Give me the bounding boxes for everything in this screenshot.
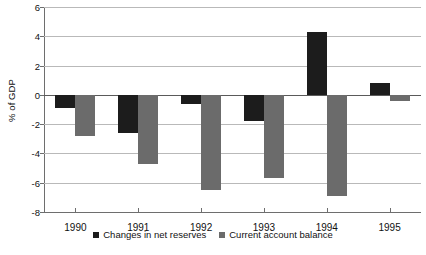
y-axis-title: % of GDP (6, 66, 17, 136)
legend-swatch-icon-1 (219, 232, 225, 238)
legend-item-1: Current account balance (219, 229, 333, 240)
gridline-4 (44, 36, 421, 37)
y-tick-label-2: 2 (35, 60, 40, 71)
y-axis-line (44, 7, 45, 212)
y-tick-0 (40, 95, 44, 96)
y-tick--6 (40, 183, 44, 184)
bar-1991-series-0 (118, 95, 138, 133)
y-tick--8 (40, 212, 44, 213)
y-tick--4 (40, 153, 44, 154)
bar-1995-series-0 (370, 83, 390, 95)
bar-1994-series-0 (307, 32, 327, 95)
y-tick-label-4: 4 (35, 31, 40, 42)
x-tick-bottom-1993 (264, 208, 265, 212)
bar-1992-series-0 (181, 95, 201, 104)
gridline-0 (44, 95, 421, 96)
y-tick-label-6: 6 (35, 2, 40, 13)
y-tick--2 (40, 124, 44, 125)
chart-figure: % of GDP 6420-2-4-6-81990199119921993199… (0, 0, 426, 255)
legend-label-1: Current account balance (229, 229, 333, 240)
gridline--8 (44, 212, 421, 213)
x-tick-bottom-1991 (138, 208, 139, 212)
y-tick-label--4: -4 (32, 148, 40, 159)
bar-1993-series-0 (244, 95, 264, 121)
gridline-6 (44, 7, 421, 8)
x-tick-bottom-1992 (201, 208, 202, 212)
y-tick-label-0: 0 (35, 89, 40, 100)
y-tick-label--8: -8 (32, 207, 40, 218)
plot-area: 6420-2-4-6-8199019911992199319941995 (44, 7, 421, 212)
y-tick-4 (40, 36, 44, 37)
bar-1995-series-1 (390, 95, 410, 101)
bar-1993-series-1 (264, 95, 284, 178)
gridline--4 (44, 153, 421, 154)
x-tick-bottom-1990 (75, 208, 76, 212)
y-tick-6 (40, 7, 44, 8)
bar-1990-series-0 (55, 95, 75, 108)
bar-1991-series-1 (138, 95, 158, 164)
legend-swatch-icon-0 (93, 232, 99, 238)
legend-label-0: Changes in net reserves (103, 229, 206, 240)
bar-1994-series-1 (327, 95, 347, 196)
y-tick-label--2: -2 (32, 119, 40, 130)
y-tick-label--6: -6 (32, 177, 40, 188)
legend-item-0: Changes in net reserves (93, 229, 206, 240)
clipped-caption (0, 247, 426, 255)
gridline--2 (44, 124, 421, 125)
x-tick-bottom-1994 (327, 208, 328, 212)
chart-legend: Changes in net reservesCurrent account b… (0, 229, 426, 240)
x-tick-bottom-1995 (390, 208, 391, 212)
gridline--6 (44, 183, 421, 184)
bar-1992-series-1 (201, 95, 221, 190)
y-tick-2 (40, 66, 44, 67)
bar-1990-series-1 (75, 95, 95, 136)
gridline-2 (44, 66, 421, 67)
